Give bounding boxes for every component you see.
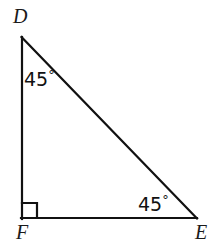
- angle-value-d: 45: [24, 68, 48, 90]
- angle-label-at-d: 45°: [24, 70, 55, 89]
- vertex-label-d: D: [13, 6, 27, 26]
- side-de-line: [22, 37, 198, 219]
- angle-value-e: 45: [138, 193, 162, 215]
- degree-symbol-d: °: [48, 67, 55, 82]
- vertex-label-f: F: [16, 222, 28, 242]
- right-angle-square-icon: [22, 203, 37, 218]
- geometry-figure-canvas: D F E 45° 45°: [0, 0, 212, 250]
- vertex-label-e: E: [195, 222, 207, 242]
- angle-label-at-e: 45°: [138, 195, 169, 214]
- triangle-drawing: [0, 0, 212, 250]
- degree-symbol-e: °: [162, 192, 169, 207]
